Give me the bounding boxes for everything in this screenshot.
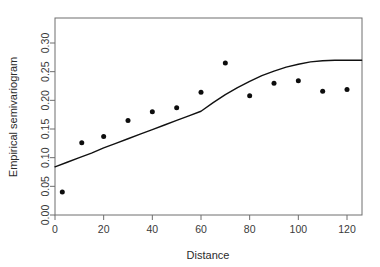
y-tick-label: 0.25: [39, 61, 51, 82]
data-point: [60, 190, 65, 195]
y-tick-label: 0.20: [39, 90, 51, 111]
y-tick-label: 0.05: [39, 176, 51, 197]
data-point: [296, 78, 301, 83]
y-tick-label: 0.10: [39, 147, 51, 168]
x-tick-label: 120: [338, 223, 356, 235]
data-point-group: [60, 61, 350, 195]
x-tick-label: 80: [244, 223, 256, 235]
fitted-model-curve: [55, 60, 362, 167]
data-point: [199, 90, 204, 95]
y-axis-title: Empirical semivariogram: [7, 57, 19, 177]
data-point: [101, 134, 106, 139]
data-point: [247, 93, 252, 98]
y-axis-tick-labels: 0.000.050.100.150.200.250.30: [39, 33, 51, 226]
data-point: [320, 89, 325, 94]
x-axis-ticks: [55, 215, 347, 220]
semivariogram-figure: 020406080100120 0.000.050.100.150.200.25…: [0, 0, 380, 267]
x-axis-title: Distance: [187, 249, 230, 261]
data-point: [272, 81, 277, 86]
data-point: [345, 87, 350, 92]
x-tick-label: 20: [98, 223, 110, 235]
y-tick-label: 0.30: [39, 33, 51, 54]
x-tick-label: 0: [52, 223, 58, 235]
x-tick-label: 60: [195, 223, 207, 235]
x-tick-label: 40: [146, 223, 158, 235]
plot-canvas: 020406080100120 0.000.050.100.150.200.25…: [0, 0, 380, 267]
y-tick-label: 0.00: [39, 205, 51, 226]
data-point: [150, 109, 155, 114]
plot-frame: [55, 18, 362, 215]
data-point: [126, 118, 131, 123]
data-point: [174, 105, 179, 110]
data-point: [223, 61, 228, 66]
data-point: [79, 140, 84, 145]
y-tick-label: 0.15: [39, 119, 51, 140]
x-tick-label: 100: [290, 223, 308, 235]
x-axis-tick-labels: 020406080100120: [52, 223, 356, 235]
